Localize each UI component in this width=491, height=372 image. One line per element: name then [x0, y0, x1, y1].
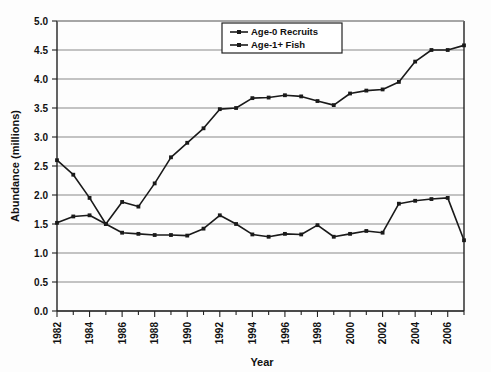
x-axis-tick-label: 1998 — [312, 322, 323, 345]
y-axis-tick-label: 4.0 — [34, 74, 48, 85]
data-point-marker — [332, 235, 336, 239]
data-point-marker — [250, 233, 254, 237]
data-point-marker — [364, 89, 368, 93]
data-point-marker — [446, 48, 450, 52]
chart-figure: 0.00.51.01.52.02.53.03.54.04.55.0 198219… — [0, 0, 491, 372]
x-axis-title: Year — [250, 356, 274, 368]
data-point-marker — [250, 96, 254, 100]
data-point-marker — [413, 60, 417, 64]
legend-label: Age-1+ Fish — [251, 39, 305, 50]
data-point-marker — [88, 213, 92, 217]
y-axis-tick-label: 1.0 — [34, 248, 48, 259]
data-point-marker — [71, 215, 75, 219]
data-point-marker — [218, 107, 222, 111]
data-point-marker — [381, 231, 385, 235]
x-axis-tick-label: 2004 — [410, 322, 421, 345]
data-point-marker — [88, 196, 92, 200]
data-point-marker — [283, 232, 287, 236]
data-point-marker — [430, 197, 434, 201]
data-point-marker — [446, 196, 450, 200]
legend-label: Age-0 Recruits — [251, 26, 318, 37]
data-point-marker — [202, 227, 206, 231]
data-point-marker — [120, 200, 124, 204]
data-point-marker — [316, 223, 320, 227]
data-point-marker — [430, 48, 434, 52]
legend: Age-0 RecruitsAge-1+ Fish — [222, 23, 342, 53]
x-axis-tick-label: 1982 — [52, 322, 63, 345]
data-point-marker — [153, 182, 157, 186]
data-point-marker — [137, 205, 141, 209]
data-point-marker — [71, 173, 75, 177]
data-point-marker — [55, 221, 59, 225]
data-point-marker — [234, 222, 238, 226]
x-axis-tick-label: 2006 — [442, 322, 453, 345]
data-point-marker — [234, 106, 238, 110]
x-axis-tick-label: 1994 — [247, 322, 258, 345]
data-point-marker — [283, 93, 287, 97]
data-point-marker — [202, 126, 206, 130]
data-point-marker — [120, 231, 124, 235]
data-point-marker — [381, 88, 385, 92]
data-point-marker — [397, 202, 401, 206]
x-axis-tick-label: 2002 — [377, 322, 388, 345]
y-axis-tick-label: 3.5 — [34, 103, 48, 114]
data-point-marker — [316, 99, 320, 103]
x-axis-tick-label: 1990 — [182, 322, 193, 345]
y-axis-tick-label: 0.0 — [34, 306, 48, 317]
x-axis-tick-label: 1984 — [84, 322, 95, 345]
data-point-marker — [169, 233, 173, 237]
x-axis-tick-label: 1986 — [117, 322, 128, 345]
abundance-line-chart: 0.00.51.01.52.02.53.03.54.04.55.0 198219… — [0, 0, 491, 372]
data-point-marker — [364, 229, 368, 233]
figure-background — [0, 0, 491, 372]
data-point-marker — [267, 235, 271, 239]
data-point-marker — [299, 95, 303, 99]
legend-marker-sample — [237, 43, 241, 47]
data-point-marker — [332, 103, 336, 107]
x-axis-tick-label: 1992 — [214, 322, 225, 345]
data-point-marker — [462, 238, 466, 242]
data-point-marker — [218, 213, 222, 217]
x-axis-tick-label: 2000 — [345, 322, 356, 345]
data-point-marker — [185, 141, 189, 145]
data-point-marker — [397, 80, 401, 84]
data-point-marker — [185, 234, 189, 238]
data-point-marker — [299, 233, 303, 237]
data-point-marker — [413, 199, 417, 203]
y-axis-tick-label: 5.0 — [34, 16, 48, 27]
y-axis-tick-label: 3.0 — [34, 132, 48, 143]
y-axis-tick-label: 2.5 — [34, 161, 48, 172]
data-point-marker — [462, 43, 466, 47]
data-point-marker — [55, 158, 59, 162]
data-point-marker — [267, 96, 271, 100]
data-point-marker — [153, 233, 157, 237]
y-axis-title: Abundance (millions) — [9, 110, 21, 222]
x-axis-tick-label: 1996 — [280, 322, 291, 345]
data-point-marker — [104, 222, 108, 226]
data-point-marker — [348, 232, 352, 236]
y-axis-tick-label: 4.5 — [34, 45, 48, 56]
y-axis-tick-label: 0.5 — [34, 277, 48, 288]
y-axis-tick-label: 1.5 — [34, 219, 48, 230]
y-axis-tick-label: 2.0 — [34, 190, 48, 201]
data-point-marker — [169, 155, 173, 159]
legend-marker-sample — [237, 30, 241, 34]
x-axis-tick-label: 1988 — [149, 322, 160, 345]
data-point-marker — [348, 92, 352, 96]
data-point-marker — [137, 232, 141, 236]
